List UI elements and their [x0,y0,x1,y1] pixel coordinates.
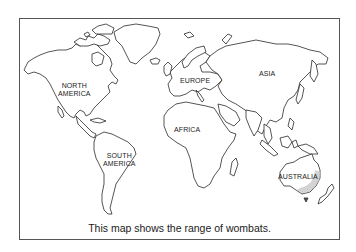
label-asia: ASIA [259,70,275,78]
sulawesi [292,140,298,148]
label-africa: AFRICA [174,126,200,134]
label-north-america: NORTH AMERICA [58,82,91,98]
svalbard [184,32,194,38]
madagascar [230,158,238,176]
southeast-asia-peninsula [264,124,272,144]
map-caption: This map shows the range of wombats. [19,222,340,234]
arctic-islands [74,34,110,46]
tasmania [304,198,308,202]
borneo [280,136,292,148]
iceland [150,58,160,64]
cuba [90,118,106,123]
label-north-america-line2: AMERICA [58,90,91,98]
label-south-america-line2: AMERICA [103,160,136,168]
greenland-outline [114,24,160,64]
new-guinea [298,144,318,154]
label-south-america-line1: SOUTH [103,152,136,160]
new-zealand [318,184,334,204]
philippines [288,118,294,130]
label-europe: EUROPE [180,77,210,85]
label-australia: AUSTRALIA [278,173,318,181]
label-north-america-line1: NORTH [58,82,91,90]
label-south-america: SOUTH AMERICA [103,152,136,168]
italy [196,90,204,102]
south-america-outline [94,132,136,214]
north-america-outline [24,42,118,118]
arctic-island-small [92,24,114,34]
novaya-zemlya [222,34,232,44]
